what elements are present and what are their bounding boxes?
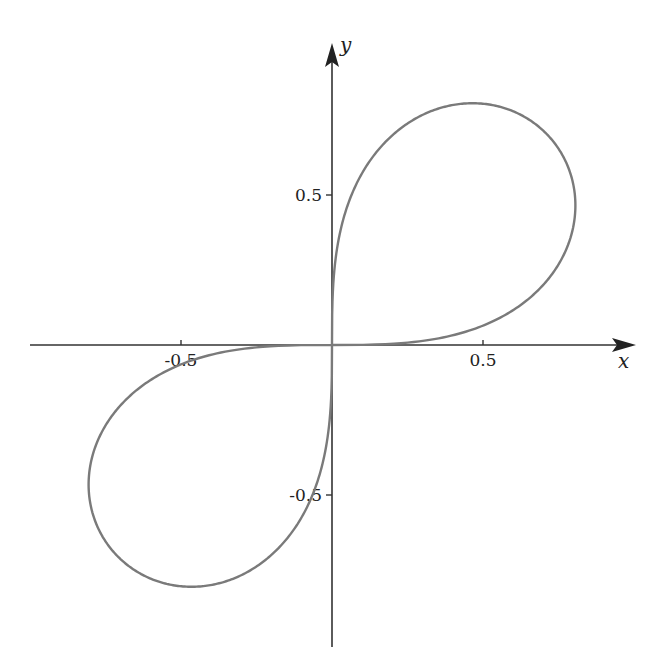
y-tick-label-neg: -0.5: [289, 485, 322, 505]
x-tick-label-pos: 0.5: [469, 350, 496, 370]
y-tick-label-pos: 0.5: [295, 185, 322, 205]
x-axis-label: x: [618, 349, 629, 373]
plot-canvas: -0.5 0.5 0.5 -0.5 x y: [0, 0, 665, 672]
y-axis-label: y: [339, 33, 352, 57]
